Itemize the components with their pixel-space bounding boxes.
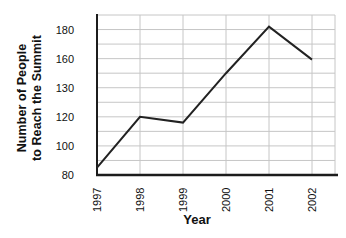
x-tick-label: 1999: [177, 188, 189, 212]
x-tick-label: 2002: [306, 188, 318, 212]
x-tick-label: 2001: [263, 188, 275, 212]
x-tick-label: 2000: [220, 188, 232, 212]
x-axis-title: Year: [152, 212, 242, 227]
y-tick-label: 160: [56, 53, 74, 65]
y-tick-label: 80: [62, 169, 74, 181]
y-tick-label: 180: [56, 24, 74, 36]
y-tick-label: 120: [56, 111, 74, 123]
plot-area: 8010012013016018019971998199920002001200…: [0, 0, 346, 238]
y-axis-title-line1: Number of People: [15, 35, 30, 161]
y-tick-label: 100: [56, 140, 74, 152]
y-axis-title: Number of People to Reach the Summit: [15, 35, 45, 161]
x-tick-label: 1997: [91, 188, 103, 212]
data-line: [97, 27, 312, 168]
x-tick-label: 1998: [134, 188, 146, 212]
y-axis-title-line2: to Reach the Summit: [30, 35, 45, 161]
y-tick-label: 130: [56, 82, 74, 94]
summit-line-chart: 8010012013016018019971998199920002001200…: [0, 0, 346, 238]
